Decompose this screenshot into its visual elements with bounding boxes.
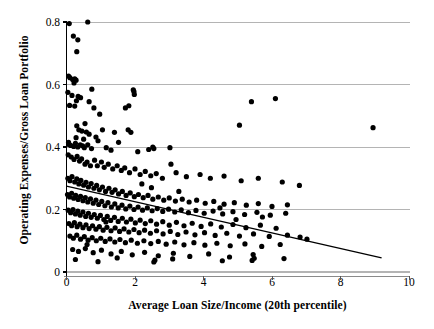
data-point <box>297 183 302 188</box>
data-point <box>117 237 122 242</box>
data-point <box>112 130 117 135</box>
data-point <box>129 238 134 243</box>
data-point <box>174 170 179 175</box>
data-point <box>210 208 215 213</box>
data-point <box>120 216 125 221</box>
data-point <box>94 183 99 188</box>
data-point <box>202 211 207 216</box>
data-point <box>69 93 74 98</box>
data-point <box>78 178 83 183</box>
data-point <box>85 19 90 24</box>
data-point <box>156 239 161 244</box>
data-point <box>220 211 225 216</box>
data-point <box>184 174 189 179</box>
data-point <box>278 242 283 247</box>
data-point <box>160 176 165 181</box>
data-point <box>220 258 225 263</box>
data-point <box>71 80 76 85</box>
data-point <box>160 209 165 214</box>
data-point <box>150 197 155 202</box>
data-point <box>164 242 169 247</box>
data-point <box>154 228 159 233</box>
data-point <box>87 99 92 104</box>
data-point <box>94 238 99 243</box>
data-point <box>148 173 153 178</box>
data-point <box>113 225 118 230</box>
data-point <box>91 250 96 255</box>
data-point <box>99 248 104 253</box>
data-point <box>128 217 133 222</box>
data-point <box>256 201 261 206</box>
data-point <box>89 181 94 186</box>
data-point <box>69 174 74 179</box>
data-point <box>128 190 133 195</box>
scatter-plot-figure: Operating Expenses/Gross Loan Portfolio … <box>0 0 434 329</box>
data-point <box>113 187 118 192</box>
data-point <box>202 230 207 235</box>
data-point <box>95 259 100 264</box>
data-point <box>120 189 125 194</box>
data-point <box>104 145 109 150</box>
data-point <box>180 197 185 202</box>
data-point <box>88 163 93 168</box>
data-point <box>73 257 78 262</box>
data-point <box>105 214 110 219</box>
data-point <box>206 251 211 256</box>
data-point <box>280 179 285 184</box>
data-point <box>106 162 111 167</box>
data-point <box>91 105 96 110</box>
data-point <box>131 227 136 232</box>
data-point <box>224 231 229 236</box>
data-point <box>105 200 110 205</box>
data-point <box>183 229 188 234</box>
data-point <box>174 220 179 225</box>
data-point <box>112 201 117 206</box>
data-point <box>65 90 70 95</box>
data-point <box>70 207 75 212</box>
data-point <box>138 218 143 223</box>
data-point <box>135 204 140 209</box>
data-point <box>154 171 159 176</box>
data-point <box>172 239 177 244</box>
data-point <box>267 234 272 239</box>
data-point <box>133 220 138 225</box>
data-point <box>142 228 147 233</box>
data-point <box>138 172 143 177</box>
data-point <box>100 127 105 132</box>
data-point <box>135 149 140 154</box>
trendline <box>67 186 382 258</box>
data-point <box>239 178 244 183</box>
data-point <box>79 128 84 133</box>
data-point <box>156 253 161 258</box>
data-point <box>82 121 87 126</box>
data-point <box>89 87 94 92</box>
data-point <box>221 202 226 207</box>
data-point <box>176 189 181 194</box>
data-point <box>181 223 186 228</box>
data-point <box>115 255 120 260</box>
data-point <box>148 218 153 223</box>
data-point <box>98 213 103 218</box>
data-point <box>167 145 172 150</box>
data-point <box>203 201 208 206</box>
data-point <box>83 180 88 185</box>
data-point <box>127 170 132 175</box>
data-point <box>117 229 122 234</box>
data-point <box>148 231 153 236</box>
data-point <box>227 254 232 259</box>
data-point <box>221 173 226 178</box>
data-point <box>119 249 124 254</box>
data-point <box>132 166 137 171</box>
data-point <box>98 236 103 241</box>
data-point <box>127 203 132 208</box>
data-point <box>143 169 148 174</box>
data-point <box>150 208 155 213</box>
data-point <box>194 198 199 203</box>
data-point <box>143 221 148 226</box>
data-point <box>80 209 85 214</box>
data-point <box>123 240 128 245</box>
data-point <box>87 132 92 137</box>
data-point <box>149 185 154 190</box>
data-point <box>75 154 80 159</box>
data-point <box>191 240 196 245</box>
